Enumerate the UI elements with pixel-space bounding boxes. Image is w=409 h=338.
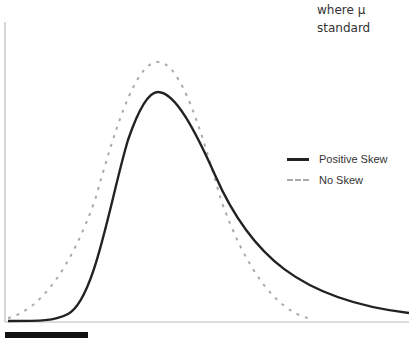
legend-item-no-skew: No Skew (287, 174, 363, 186)
dashed-line-icon (287, 179, 309, 181)
legend-label: No Skew (319, 174, 363, 186)
solid-line-icon (287, 158, 309, 161)
no-skew-curve (8, 62, 308, 318)
legend-item-positive-skew: Positive Skew (287, 153, 387, 165)
legend-label: Positive Skew (319, 153, 387, 165)
positive-skew-curve (8, 92, 409, 321)
bottom-bar (5, 332, 88, 338)
